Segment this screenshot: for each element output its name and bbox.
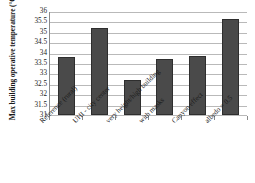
y-tick-label: 34.5 [34, 40, 47, 47]
y-tick-label: 32 [40, 92, 47, 99]
x-axis-category-labels: Reference (rural)UHI - city centervery h… [0, 118, 255, 183]
y-tick-label: 33.5 [34, 60, 47, 67]
y-tick-label: 36 [40, 8, 47, 15]
y-tick-label: 35.5 [34, 19, 47, 26]
y-tick-label: 31.5 [34, 102, 47, 109]
y-tick-label: 33 [40, 71, 47, 78]
y-axis-title-text: Max building operative temperature (°C) [9, 2, 18, 120]
plot-area [49, 12, 247, 116]
bar-series [50, 12, 247, 115]
y-axis-tick-labels: 3635.53534.53433.53332.53231.531 [24, 12, 48, 116]
bar-chart: Max building operative temperature (°C) … [0, 0, 255, 183]
y-tick-label: 35 [40, 29, 47, 36]
y-axis-title: Max building operative temperature (°C) [0, 0, 26, 122]
y-tick-label: 34 [40, 50, 47, 57]
y-tick-label: 32.5 [34, 81, 47, 88]
